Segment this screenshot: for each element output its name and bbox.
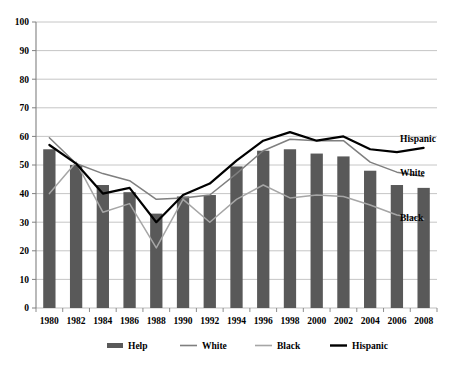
x-axis-tick-label: 1984 [93, 316, 112, 326]
x-axis-tick-label: 1998 [280, 316, 299, 326]
y-axis-tick-label: 60 [20, 132, 30, 142]
y-axis-tick-label: 80 [20, 75, 30, 85]
series-label-hispanic: Hispanic [400, 134, 436, 144]
x-axis-tick-label: 2008 [414, 316, 433, 326]
x-axis-tick-label: 1980 [40, 316, 59, 326]
y-axis-tick-label: 0 [24, 303, 29, 313]
x-axis-tick-label: 1990 [174, 316, 193, 326]
y-axis-tick-label: 70 [20, 103, 30, 113]
x-axis-tick-label: 1994 [227, 316, 246, 326]
bar [43, 149, 55, 308]
bar [417, 188, 429, 308]
x-axis-tick-label: 2000 [307, 316, 326, 326]
bar [284, 149, 296, 308]
x-axis-tick-label: 1988 [147, 316, 166, 326]
x-axis-tick-label: 1986 [120, 316, 139, 326]
x-axis-tick-label: 1982 [67, 316, 86, 326]
x-axis-tick-label: 2002 [334, 316, 353, 326]
legend-swatch-black [255, 345, 272, 347]
legend-swatch-hispanic [330, 344, 347, 346]
y-axis-tick-label: 100 [15, 17, 30, 27]
x-axis-tick-label: 1996 [254, 316, 273, 326]
chart-container: 0102030405060708090100 19801982198419861… [0, 0, 453, 365]
legend-label-hispanic: Hispanic [352, 341, 388, 351]
legend-label-white: White [202, 341, 227, 351]
bar [177, 196, 189, 308]
y-axis-tick-label: 10 [20, 275, 30, 285]
series-label-black: Black [400, 213, 424, 223]
bar [70, 165, 82, 308]
x-axis-tick-label: 2006 [387, 316, 406, 326]
bar [364, 171, 376, 308]
legend-swatch-help [107, 343, 123, 348]
bar [230, 166, 242, 308]
y-axis-tick-label: 50 [20, 160, 30, 170]
bar [204, 195, 216, 308]
x-axis-tick-label: 2004 [361, 316, 380, 326]
y-axis-tick-label: 40 [20, 189, 30, 199]
legend-swatch-white [180, 345, 197, 347]
bar [337, 156, 349, 308]
legend-label-black: Black [277, 341, 301, 351]
legend-label-help: Help [128, 341, 148, 351]
x-axis-tick-labels: 1980198219841986198819901992199419961998… [40, 316, 434, 326]
y-axis-tick-label: 90 [20, 46, 30, 56]
line-bar-combo-chart: 0102030405060708090100 19801982198419861… [0, 0, 453, 365]
series-label-white: White [400, 168, 425, 178]
x-axis-tick-label: 1992 [200, 316, 219, 326]
bar [257, 151, 269, 308]
y-axis-tick-label: 20 [20, 246, 30, 256]
bar [311, 154, 323, 308]
bar [391, 185, 403, 308]
y-axis-tick-label: 30 [20, 218, 30, 228]
bar [150, 214, 162, 308]
